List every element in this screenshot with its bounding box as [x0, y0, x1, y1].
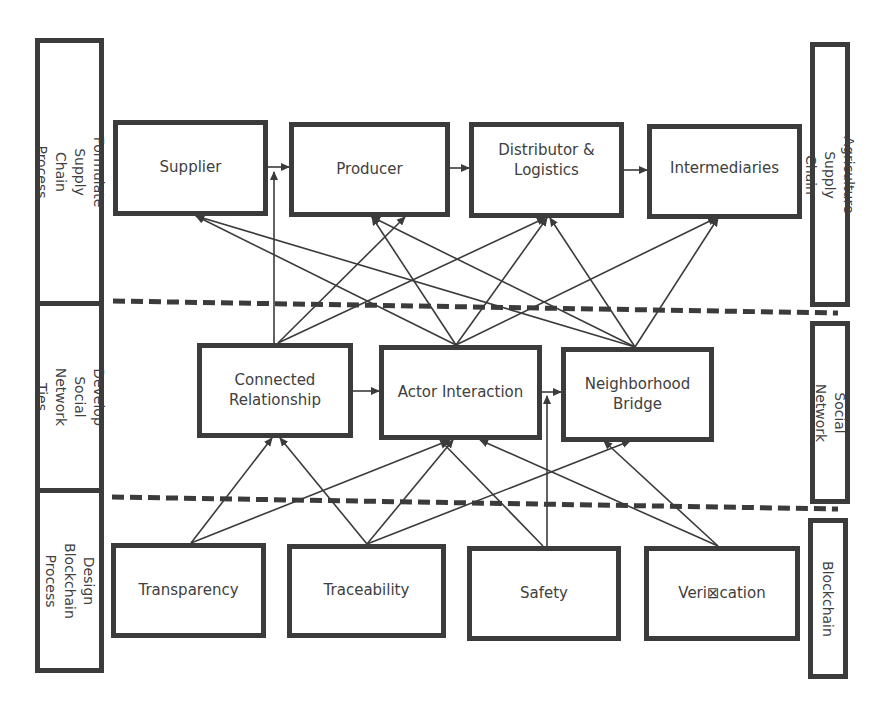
node-label: Veri⊠cation — [678, 584, 765, 604]
node-label: Neighborhood Bridge — [585, 375, 691, 414]
node-verification: Veri⊠cation — [644, 546, 800, 641]
edge-safety-actor — [440, 440, 543, 546]
right-section-label: Blockchain — [819, 561, 838, 637]
node-label: Intermediaries — [670, 159, 779, 179]
right-section-label: Social Network — [811, 383, 849, 441]
left-section-label: Design Blockchain Process — [41, 543, 98, 619]
right-section-blockchain: Blockchain — [808, 518, 848, 679]
right-section-agriculture-supply-chain: Agriculture Supply Chain — [810, 42, 850, 307]
edge-verification-neighborhood — [604, 441, 718, 546]
edge-neighborhood-supplier — [196, 216, 635, 347]
node-supplier: Supplier — [113, 120, 268, 216]
left-section-label: Develop Social Network Ties — [32, 368, 108, 426]
edge-actor-supplier — [196, 216, 456, 345]
node-label: Transparency — [138, 581, 238, 601]
node-label: Producer — [336, 160, 402, 180]
node-connected-relationship: Connected Relationship — [197, 343, 353, 438]
node-label: Connected Relationship — [229, 371, 321, 410]
edge-connected-producer — [278, 217, 405, 343]
node-traceability: Traceability — [287, 544, 446, 638]
layer-separator-top — [113, 301, 838, 313]
node-label: Safety — [520, 584, 568, 604]
left-section-develop-social-network: Develop Social Network Ties — [35, 301, 104, 493]
edge-neighborhood-producer — [372, 217, 635, 347]
node-label: Distributor & Logistics — [498, 141, 594, 180]
node-actor-interaction: Actor Interaction — [379, 345, 542, 440]
node-safety: Safety — [467, 546, 621, 641]
node-producer: Producer — [289, 122, 450, 217]
node-transparency: Transparency — [111, 543, 266, 638]
right-section-label: Agriculture Supply Chain — [802, 136, 859, 213]
edge-neighborhood-distributor — [550, 218, 635, 347]
edge-verification-actor — [480, 440, 718, 546]
node-neighborhood-bridge: Neighborhood Bridge — [561, 347, 714, 442]
node-label: Supplier — [160, 158, 222, 178]
left-section-design-blockchain: Design Blockchain Process — [35, 488, 104, 673]
left-section-label: Formulate Supply Chain Process — [32, 137, 108, 208]
edge-traceability-neighborhood — [367, 441, 630, 544]
right-section-social-network: Social Network — [810, 321, 850, 504]
node-distributor-logistics: Distributor & Logistics — [469, 122, 624, 218]
left-section-formulate-supply-chain: Formulate Supply Chain Process — [35, 38, 104, 306]
node-label: Traceability — [324, 581, 410, 601]
node-label: Actor Interaction — [398, 383, 524, 403]
node-intermediaries: Intermediaries — [647, 124, 802, 219]
edge-traceability-connected — [280, 438, 367, 544]
